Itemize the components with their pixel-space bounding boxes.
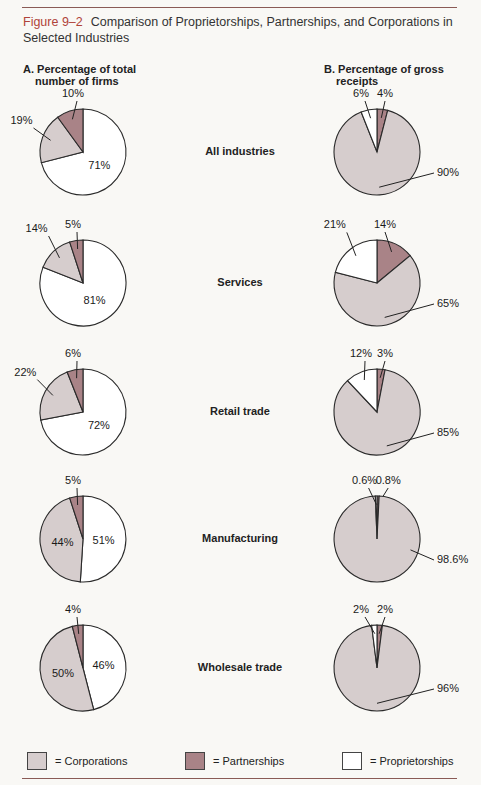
corporations-percent-label: 85%: [437, 426, 459, 438]
proprietorships-percent-label: 46%: [92, 659, 114, 671]
leader-line: [77, 232, 78, 249]
partnerships-percent-label: 14%: [374, 218, 396, 230]
leader-line: [364, 361, 365, 380]
proprietorships-percent-label: 71%: [88, 159, 110, 171]
pie-b-wholesale-trade: 2%96%2%: [334, 603, 459, 711]
corporations-percent-label: 22%: [14, 366, 36, 378]
bottom-rule: [22, 778, 457, 779]
partnerships-swatch: [185, 752, 205, 770]
pie-a-all-industries: 71%19%10%: [10, 87, 126, 195]
corporations-percent-label: 14%: [26, 222, 48, 234]
corporations-percent-label: 90%: [437, 166, 459, 178]
partnerships-percent-label: 3%: [377, 347, 393, 359]
partnerships-percent-label: 2%: [377, 603, 393, 615]
corporations-percent-label: 50%: [52, 667, 74, 679]
pie-a-manufacturing: 51%44%5%: [40, 474, 126, 582]
partnerships-percent-label: 10%: [62, 87, 84, 99]
partnerships-percent-label: 4%: [65, 603, 81, 615]
corporations-percent-label: 98.6%: [437, 553, 468, 565]
proprietorships-percent-label: 12%: [350, 347, 372, 359]
partnerships-percent-label: 5%: [65, 474, 81, 486]
proprietorships-swatch: [342, 752, 362, 770]
corporations-percent-label: 65%: [437, 297, 459, 309]
pie-b-manufacturing: 0.8%98.6%0.6%: [334, 474, 468, 582]
proprietorships-percent-label: 72%: [88, 419, 110, 431]
proprietorships-percent-label: 2%: [353, 603, 369, 615]
corporations-percent-label: 19%: [10, 114, 32, 126]
legend-label: = Corporations: [55, 755, 127, 767]
pie-b-retail-trade: 3%85%12%: [334, 347, 459, 455]
proprietorships-percent-label: 21%: [324, 218, 346, 230]
partnerships-percent-label: 6%: [65, 347, 81, 359]
leader-line: [77, 488, 78, 505]
legend-label: = Proprietorships: [370, 755, 453, 767]
partnerships-percent-label: 4%: [377, 87, 393, 99]
legend-corporations: = Corporations: [27, 752, 127, 770]
pie-a-wholesale-trade: 46%50%4%: [40, 603, 126, 711]
pie-b-all-industries: 4%90%6%: [334, 87, 459, 195]
industry-label: Services: [180, 276, 300, 288]
industry-label: Wholesale trade: [180, 661, 300, 673]
proprietorships-percent-label: 0.6%: [352, 474, 377, 486]
corporations-swatch: [27, 752, 47, 770]
industry-label: All industries: [180, 145, 300, 157]
proprietorships-percent-label: 6%: [353, 87, 369, 99]
legend-partnerships: = Partnerships: [185, 752, 284, 770]
partnerships-percent-label: 0.8%: [376, 474, 401, 486]
industry-label: Manufacturing: [180, 532, 300, 544]
corporations-percent-label: 44%: [51, 536, 73, 548]
legend-label: = Partnerships: [213, 755, 284, 767]
pie-b-services: 14%65%21%: [324, 218, 459, 326]
pie-a-services: 81%14%5%: [26, 218, 126, 326]
pie-a-retail-trade: 72%22%6%: [14, 347, 126, 455]
legend-proprietorships: = Proprietorships: [342, 752, 453, 770]
corporations-percent-label: 96%: [437, 682, 459, 694]
partnerships-percent-label: 5%: [65, 218, 81, 230]
proprietorships-percent-label: 81%: [84, 294, 106, 306]
proprietorships-percent-label: 51%: [93, 534, 115, 546]
industry-label: Retail trade: [180, 405, 300, 417]
